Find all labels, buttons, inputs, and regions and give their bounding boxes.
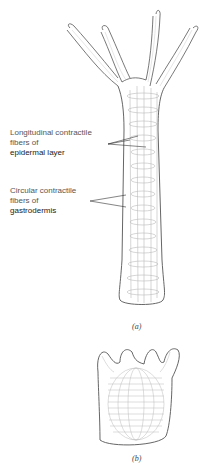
label-line: fibers of — [10, 138, 92, 148]
hydra-diagram: Longitudinal contractile fibers of epide… — [0, 0, 204, 471]
caption-a: (a) — [132, 322, 141, 331]
label-line: Circular contractile — [10, 186, 76, 196]
label-circular-fibers: Circular contractile fibers of gastroder… — [10, 186, 76, 216]
caption-b: (b) — [132, 454, 141, 463]
label-line: gastrodermis — [10, 206, 76, 216]
label-line: fibers of — [10, 196, 76, 206]
hydra-drawing — [0, 0, 204, 471]
label-longitudinal-fibers: Longitudinal contractile fibers of epide… — [10, 128, 92, 158]
label-line: epidermal layer — [10, 148, 92, 158]
contracted-hydra — [98, 349, 180, 445]
label-line: Longitudinal contractile — [10, 128, 92, 138]
